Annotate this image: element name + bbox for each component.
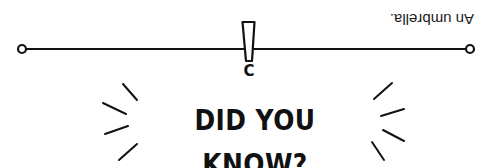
right-circle-endpoint-icon [466,45,474,53]
left-burst-rays-icon [103,84,137,160]
did-you-know-graphic: C An umbrella. DID YOU KNOW? [0,0,486,168]
upside-down-answer-text: An umbrella. [368,6,474,32]
right-burst-rays-icon [372,83,404,160]
left-circle-endpoint-icon [18,45,26,53]
exclamation-mark-icon [243,22,255,61]
marker-letter: C [241,62,257,80]
did-you-know-heading: DID YOU KNOW? [156,98,354,142]
